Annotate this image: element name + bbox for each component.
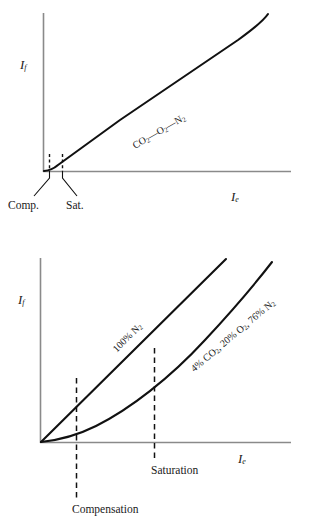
top-marker-label-compensation: Comp. (8, 200, 39, 212)
top-leader-saturation (63, 171, 78, 196)
bottom-y-axis-label: If (18, 293, 25, 307)
bottom-curve-100-n2 (41, 259, 226, 442)
bottom-x-axis-label: Ie (238, 452, 246, 466)
top-y-axis-label: If (20, 58, 27, 72)
bottom-marker-label-compensation: Compensation (72, 504, 138, 516)
figure-svg (0, 0, 313, 530)
figure-container: If Ie CO2—O2—N2 Comp. Sat. If Ie 100% N2… (0, 0, 313, 530)
top-chart (34, 13, 291, 196)
top-x-axis-label: Ie (231, 190, 239, 204)
bottom-curve-4co2-20o2-76n2 (41, 262, 272, 442)
top-leader-compensation (34, 171, 50, 196)
bottom-marker-label-saturation: Saturation (151, 465, 198, 477)
top-curve-co2-o2-n2 (44, 14, 268, 171)
top-marker-label-saturation: Sat. (66, 200, 84, 212)
